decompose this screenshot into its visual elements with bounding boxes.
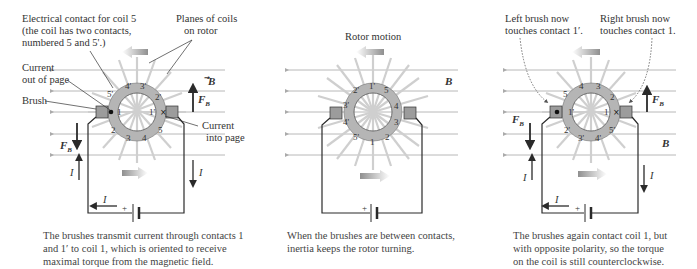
annotation-current-in-line1: Current [202,120,234,132]
annotation-current-out-line1: Current [22,62,54,74]
ring-label: 5 [563,88,568,100]
ring-label: 5' [353,131,359,143]
annotation-left-brush-line2: touches contact 1′. [505,25,583,37]
current-label-right: I [199,167,203,179]
annotation-rotor-motion: Rotor motion [345,31,401,43]
current-label-right: I [650,170,654,182]
ring-label: 1 [117,106,122,118]
ring-label: 2' [564,124,570,136]
ring-label: 2' [353,84,359,96]
vector-b-label: ⃗B [208,75,215,87]
ring-label: 1' [149,106,155,118]
ring-label: 2 [610,91,615,103]
ring-label: 4' [595,132,601,144]
svg-text:×: × [613,108,620,117]
vector-fb-down-label: FB [512,113,524,130]
caption-b-line2: inertia keeps the rotor turning. [287,242,414,256]
ring-label: 1' [568,106,574,118]
rotation-arrow-right [122,167,148,179]
panel-a: × [45,40,225,222]
ring-label: 3 [394,116,399,128]
rotation-arrow-right [360,170,390,182]
annotation-contact-coil5-line2: (the coil has two contacts, [22,25,131,37]
annotation-current-in-line2: into page [206,132,245,144]
ring-label: 3' [343,99,349,111]
battery-icon [133,204,139,222]
annotation-planes-line1: Planes of coils [176,13,237,25]
annotation-planes-line2: on rotor [184,25,218,37]
ring-label: 3' [140,80,146,92]
annotation-brush: Brush [22,95,47,107]
caption-b-line1: When the brushes are between contacts, [287,229,455,243]
panel-b [287,46,458,222]
caption-c-line1: The brushes again contact coil 1, but [513,229,667,243]
rotation-arrow-left [122,46,148,58]
caption-a-line3: maximal torque from the magnetic field. [43,255,213,269]
current-label-left: I [70,167,74,179]
current-label-left: I [523,172,527,184]
ring-label: 5 [384,84,389,96]
current-label-bottom: I [103,194,107,206]
ring-label: 5' [609,124,615,136]
battery-icon [585,204,591,222]
ring-label: 2' [155,91,161,103]
ring-label: 4 [394,100,399,112]
annotation-right-brush-line2: touches contact 1. [600,25,676,37]
current-out-of-page-dot [109,110,114,115]
ring-label: 5' [107,88,113,100]
vector-b-label: B [662,137,669,149]
ring-label: 3 [596,80,601,92]
ring-label: 4 [142,132,147,144]
brush-right [404,107,416,119]
battery-plus: + [122,202,127,214]
caption-a-line1: The brushes transmit current through con… [43,229,244,243]
current-label-bottom: I [555,194,559,206]
ring-label: 5 [158,124,163,136]
caption-a-line2: and 1′ to coil 1, which is oriented to r… [43,242,227,256]
brush-left [330,107,342,119]
annotation-current-out-line2: out of page [22,74,69,86]
caption-c-line2: with opposite polarity, so the torque [513,242,664,256]
ring-label: 2 [385,131,390,143]
rotation-arrow-left [572,46,600,58]
ring-label: 1 [604,106,609,118]
vector-fb-up-label: FB [198,93,210,110]
rotation-arrow-right [578,168,607,180]
brush-left [96,106,108,118]
ring-label: 3' [578,132,584,144]
ring-label: 2 [111,124,116,136]
current-out-of-page-dot [555,110,560,115]
battery-icon [371,204,377,222]
brush-right [620,106,632,118]
battery-plus: + [362,202,367,214]
ring-label: 4 [579,80,584,92]
ring-label: 1 [370,136,375,148]
rotation-arrow-left [356,46,384,58]
ring-label: 4' [125,80,131,92]
annotation-contact-coil5-line1: Electrical contact for coil 5 [22,13,136,25]
caption-c-line3: on the coil is still counterclockwise. [513,255,664,269]
ring-label: 3 [126,132,131,144]
svg-text:×: × [160,108,167,117]
brush-right [166,106,178,118]
battery-plus: + [575,202,580,214]
annotation-left-brush-line1: Left brush now [505,13,569,25]
vector-b-label: B [445,75,452,87]
vector-fb-down-label: FB [60,139,72,156]
ring-label: 1' [369,80,375,92]
panel-c: × [505,38,676,222]
vector-fb-up-label: FB [652,93,664,110]
annotation-contact-coil5-line3: numbered 5 and 5'.) [22,37,106,49]
annotation-right-brush-line1: Right brush now [600,13,670,25]
ring-label: 4' [343,116,349,128]
